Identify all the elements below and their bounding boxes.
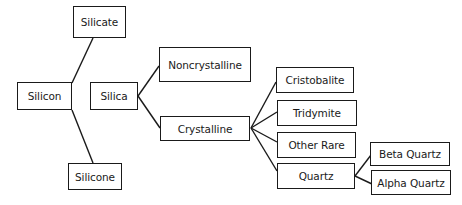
node-alpha-quartz: Alpha Quartz	[371, 170, 451, 195]
node-noncrystalline: Noncrystalline	[159, 47, 251, 82]
node-beta-quartz: Beta Quartz	[370, 142, 450, 166]
node-crystalline: Crystalline	[160, 116, 250, 141]
edge-quartz-alpha-quartz	[355, 176, 372, 184]
node-silicate: Silicate	[73, 6, 126, 38]
node-silica: Silica	[90, 82, 138, 110]
silicon-terminology-tree: Silicate Silicon Silicone Silica Noncrys…	[0, 0, 462, 205]
edge-quartz-beta-quartz	[355, 155, 371, 176]
node-cristobalite: Cristobalite	[276, 67, 354, 93]
node-silicon: Silicon	[17, 82, 72, 110]
node-tridymite: Tridymite	[277, 100, 357, 126]
edge-silica-noncrystalline	[138, 66, 159, 96]
edge-silica-crystalline	[138, 96, 160, 128]
edge-silicon-silicone	[72, 110, 93, 163]
node-other-rare: Other Rare	[277, 132, 356, 158]
edge-silicon-silicate	[72, 38, 93, 83]
node-silicone: Silicone	[68, 163, 122, 190]
node-quartz: Quartz	[277, 163, 355, 189]
